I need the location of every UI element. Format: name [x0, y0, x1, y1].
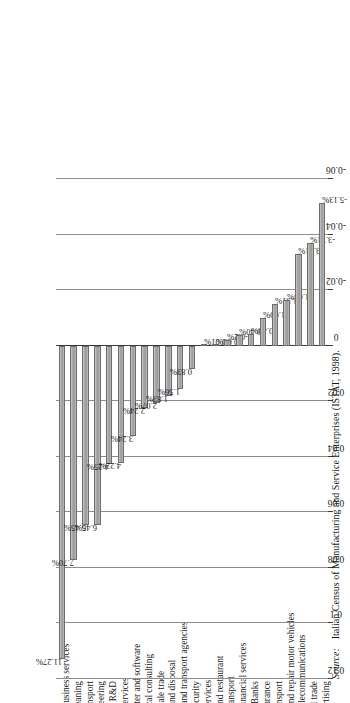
bar-slot: -0.03%: [212, 179, 219, 679]
bar[interactable]: [106, 346, 113, 464]
bar-slot: 4.25%: [106, 179, 113, 679]
bar-slot: 2.07%: [153, 179, 160, 679]
bar[interactable]: [94, 346, 101, 525]
bar[interactable]: [130, 346, 137, 436]
bar-slot: -1.51%: [272, 179, 279, 679]
bar-slot: -0.01%: [201, 179, 208, 679]
bar[interactable]: [272, 304, 279, 346]
bar-slot: -3.31%: [295, 179, 302, 679]
axis-tick-label: -0.02: [326, 276, 346, 286]
bar-slot: 4.22%: [118, 179, 125, 679]
bar-slot: 3.24%: [130, 179, 137, 679]
bar-value-label: 11.27%: [36, 657, 62, 666]
bar[interactable]: [283, 300, 290, 346]
bar-slot: -0.43%: [248, 179, 255, 679]
source-text: Italian Census of Manufacturing and Serv…: [330, 350, 341, 639]
bar-slot: -1.00%: [260, 179, 267, 679]
source-label: Source:: [330, 648, 341, 679]
source-note: Source:Italian Census of Manufacturing a…: [330, 350, 342, 679]
bar[interactable]: [307, 243, 314, 346]
chart-stage: Other business servicesCleaningSea trans…: [0, 0, 350, 703]
bar-value-label: 3.24%: [111, 434, 133, 443]
bar-slot: 0.83%: [189, 179, 196, 679]
bar-slot: -0.40%: [236, 179, 243, 679]
bar[interactable]: [295, 254, 302, 346]
figure-page: Other business servicesCleaningSea trans…: [0, 0, 350, 703]
bar[interactable]: [189, 346, 196, 369]
bar-value-label: 1.56%: [158, 388, 180, 397]
plot-area: 0.120.10.080.060.040.020-0.02-0.04-0.06 …: [56, 179, 328, 679]
bar-slot: 1.83%: [165, 179, 172, 679]
bar-slot: 2.24%: [141, 179, 148, 679]
bar[interactable]: [260, 318, 267, 346]
axis-tick: [328, 289, 333, 290]
bar-slot: 7.70%: [70, 179, 77, 679]
bar-slot: 11.27%: [59, 179, 66, 679]
bar-slot: -1.65%: [283, 179, 290, 679]
bar-value-label: 7.70%: [52, 558, 74, 567]
bar-slot: -5.13%: [319, 179, 326, 679]
bar[interactable]: [59, 346, 66, 659]
bar[interactable]: [319, 203, 326, 346]
bar[interactable]: [118, 346, 125, 463]
axis-tick-label: -0.06: [326, 165, 346, 175]
axis-tick: [328, 178, 333, 179]
bar-value-label: 6.45%: [75, 524, 97, 533]
bar-slot: 6.45%: [94, 179, 101, 679]
axis-tick: [328, 345, 333, 346]
bar-slot: -3.71%: [307, 179, 314, 679]
bar-slot: -0.2%: [224, 179, 231, 679]
bar-series: 11.27%7.70%6.45%6.45%4.25%4.22%3.24%2.24…: [56, 179, 328, 679]
axis-tick-label: -0.04: [326, 220, 346, 230]
bar-slot: 1.56%: [177, 179, 184, 679]
bar-value-label: 0.83%: [170, 367, 192, 376]
bar-slot: 6.45%: [82, 179, 89, 679]
bar[interactable]: [82, 346, 89, 525]
bar-value-label: 4.22%: [99, 462, 121, 471]
axis-tick-label: 0: [334, 331, 339, 341]
bar-value-label: -5.13%: [322, 196, 347, 205]
